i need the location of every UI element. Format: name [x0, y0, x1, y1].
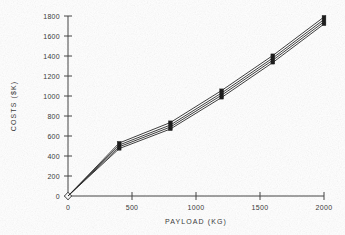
- chart-figure: 1800 1600 1400 1200 1000 800 600 400 200…: [0, 0, 345, 235]
- x-tick-label: 500: [126, 204, 139, 211]
- y-tick-label: 800: [47, 113, 60, 120]
- y-tick-label: 1600: [43, 33, 60, 40]
- y-tick-label: 1400: [43, 53, 60, 60]
- data-point-marker: [220, 89, 224, 99]
- data-point-marker: [271, 54, 275, 64]
- x-tick-label: 2000: [316, 204, 333, 211]
- data-point-marker: [117, 141, 121, 150]
- x-axis-title: PAYLOAD (KG): [165, 218, 227, 226]
- y-tick-label: 1800: [43, 13, 60, 20]
- data-point-marker: [322, 15, 326, 25]
- y-tick-label: 1000: [43, 93, 60, 100]
- y-tick-label: 0: [56, 193, 60, 200]
- y-tick-label: 200: [47, 173, 60, 180]
- data-point-marker: [169, 121, 173, 131]
- y-tick-label: 1200: [43, 73, 60, 80]
- y-tick-label: 400: [47, 153, 60, 160]
- y-tick-label: 600: [47, 133, 60, 140]
- y-axis-title: COSTS ($K): [10, 81, 18, 131]
- x-tick-label: 1000: [188, 204, 205, 211]
- x-tick-label: 1500: [252, 204, 269, 211]
- x-tick-label: 0: [66, 204, 70, 211]
